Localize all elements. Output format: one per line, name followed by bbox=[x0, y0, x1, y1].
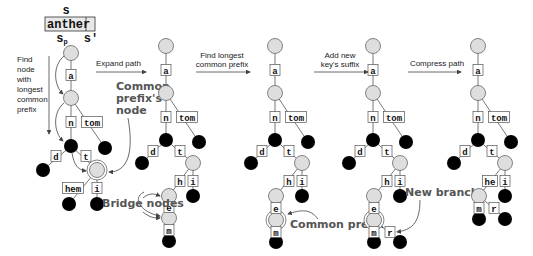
svg-text:r: r bbox=[387, 229, 392, 239]
svg-text:d: d bbox=[150, 148, 155, 158]
svg-text:Expand path: Expand path bbox=[96, 59, 141, 68]
key-text: anther bbox=[47, 18, 90, 32]
step-find-lcp: Find longest common prefix bbox=[196, 51, 250, 72]
svg-text:Add new: Add new bbox=[324, 51, 355, 60]
tree-1-initial: a n tom d t hem i bbox=[36, 46, 112, 212]
svg-text:i: i bbox=[190, 178, 196, 188]
svg-text:Find: Find bbox=[17, 55, 33, 64]
svg-text:d: d bbox=[357, 148, 362, 158]
svg-text:n: n bbox=[163, 114, 168, 124]
svg-text:a: a bbox=[370, 67, 376, 77]
svg-text:m: m bbox=[476, 205, 482, 215]
svg-text:d: d bbox=[53, 153, 58, 163]
svg-text:Compress path: Compress path bbox=[410, 59, 464, 68]
svg-text:a: a bbox=[272, 67, 278, 77]
svg-text:a: a bbox=[163, 67, 169, 77]
svg-text:t: t bbox=[384, 148, 389, 158]
svg-text:n: n bbox=[475, 114, 480, 124]
step-compress-path: Compress path bbox=[408, 59, 464, 72]
step-expand-path: Expand path bbox=[96, 59, 146, 72]
svg-text:e: e bbox=[273, 205, 278, 215]
svg-text:node: node bbox=[116, 104, 147, 117]
svg-text:he: he bbox=[485, 178, 496, 188]
svg-text:longest: longest bbox=[17, 85, 44, 94]
callout-new-branch: New branch bbox=[397, 186, 479, 232]
svg-text:d: d bbox=[462, 148, 467, 158]
svg-text:tom: tom bbox=[179, 114, 196, 124]
svg-text:Bridge nodes: Bridge nodes bbox=[102, 197, 184, 210]
svg-text:with: with bbox=[16, 75, 31, 84]
svg-text:t: t bbox=[83, 153, 88, 163]
svg-text:New branch: New branch bbox=[405, 186, 479, 199]
svg-text:d: d bbox=[259, 148, 264, 158]
svg-text:tom: tom bbox=[84, 119, 101, 129]
svg-text:common: common bbox=[17, 95, 48, 104]
svg-text:h: h bbox=[177, 178, 182, 188]
svg-text:prefix: prefix bbox=[17, 105, 37, 114]
svg-text:m: m bbox=[273, 229, 279, 239]
svg-text:a: a bbox=[475, 67, 481, 77]
svg-text:e: e bbox=[371, 205, 376, 215]
insertion-diagram: s anther sp s' Find node with longest co… bbox=[0, 0, 533, 256]
svg-text:hem: hem bbox=[65, 185, 82, 195]
svg-text:key's suffix: key's suffix bbox=[321, 60, 360, 69]
key-s-prime-label: s' bbox=[84, 32, 98, 46]
svg-text:h: h bbox=[384, 178, 389, 188]
svg-text:i: i bbox=[299, 178, 305, 188]
svg-text:tom: tom bbox=[491, 114, 508, 124]
svg-text:tom: tom bbox=[386, 114, 403, 124]
svg-text:t: t bbox=[286, 148, 291, 158]
key-box: s anther sp s' bbox=[45, 4, 98, 46]
svg-text:Find longest: Find longest bbox=[200, 51, 244, 60]
svg-text:common prefix: common prefix bbox=[196, 60, 248, 69]
svg-text:i: i bbox=[502, 178, 508, 188]
caption-find-node: Find node with longest common prefix bbox=[16, 55, 49, 134]
svg-text:n: n bbox=[272, 114, 277, 124]
tree-2-expanded: a n tom d t h i e m bbox=[135, 39, 206, 249]
step-add-suffix: Add new key's suffix bbox=[314, 51, 368, 72]
svg-text:m: m bbox=[371, 229, 377, 239]
svg-text:t: t bbox=[489, 148, 494, 158]
svg-text:i: i bbox=[94, 185, 100, 195]
svg-text:n: n bbox=[370, 114, 375, 124]
svg-text:node: node bbox=[17, 65, 35, 74]
key-sp-label: sp bbox=[56, 32, 67, 46]
svg-text:t: t bbox=[177, 148, 182, 158]
svg-text:m: m bbox=[166, 227, 172, 237]
svg-text:i: i bbox=[397, 178, 403, 188]
svg-text:a: a bbox=[68, 72, 74, 82]
svg-text:r: r bbox=[491, 205, 496, 215]
svg-text:tom: tom bbox=[288, 114, 305, 124]
key-s-label: s bbox=[62, 4, 69, 18]
svg-text:h: h bbox=[286, 178, 291, 188]
svg-text:n: n bbox=[68, 119, 73, 129]
